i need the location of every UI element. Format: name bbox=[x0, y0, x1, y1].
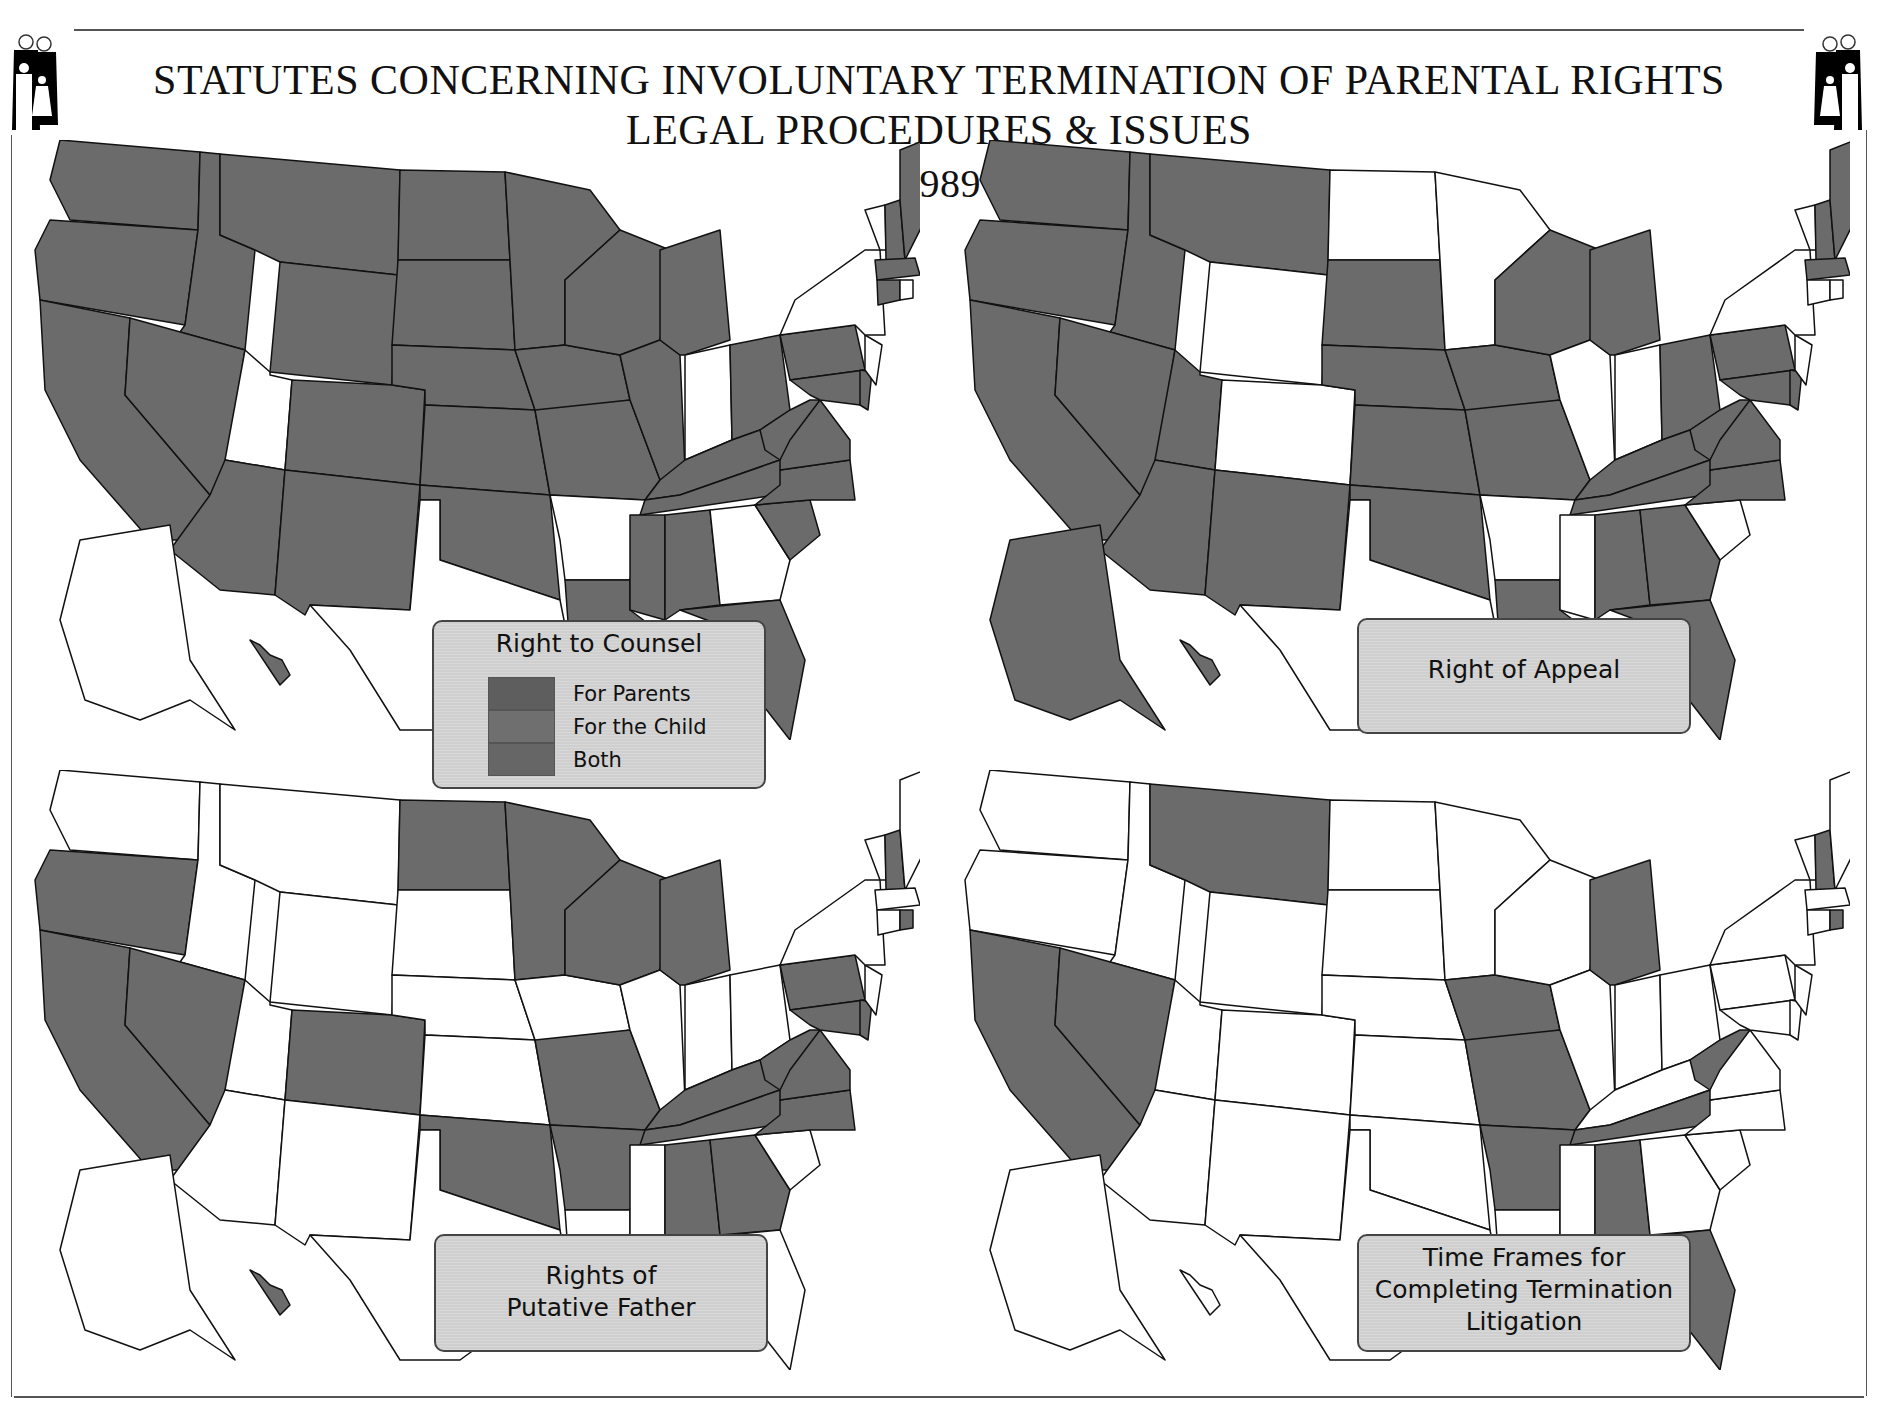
state-ct bbox=[877, 280, 900, 305]
state-me bbox=[1830, 770, 1850, 890]
state-ny bbox=[780, 880, 885, 965]
state-nd bbox=[398, 800, 510, 890]
legend-item-for-child: For the Child bbox=[488, 710, 707, 743]
state-hi bbox=[1180, 1270, 1220, 1315]
state-wa bbox=[50, 770, 200, 860]
state-hi bbox=[250, 1270, 290, 1315]
legend-item-both: Both bbox=[488, 743, 707, 776]
state-nd bbox=[398, 170, 510, 260]
swatch-for-parents bbox=[488, 677, 555, 710]
swatch-both bbox=[488, 743, 555, 776]
top-rule bbox=[74, 29, 1804, 31]
state-nm bbox=[275, 470, 420, 615]
state-wy bbox=[1200, 262, 1328, 385]
legend-time-frames: Time Frames for Completing Termination L… bbox=[1357, 1234, 1691, 1352]
state-ct bbox=[877, 910, 900, 935]
legend-right-of-appeal: Right of Appeal bbox=[1357, 618, 1691, 734]
state-sd bbox=[1322, 260, 1445, 350]
state-nd bbox=[1328, 800, 1440, 890]
legend-title-line1: Time Frames for bbox=[1359, 1242, 1689, 1274]
state-vt bbox=[865, 205, 886, 250]
state-me bbox=[900, 770, 920, 890]
legend-right-to-counsel: Right to Counsel For Parents For the Chi… bbox=[432, 620, 766, 789]
state-me bbox=[900, 140, 920, 260]
state-ri bbox=[900, 910, 913, 930]
state-nd bbox=[1328, 170, 1440, 260]
state-wy bbox=[1200, 892, 1328, 1015]
state-ny bbox=[1710, 250, 1815, 335]
state-wy bbox=[270, 892, 398, 1015]
state-hi bbox=[250, 640, 290, 685]
state-ct bbox=[1807, 910, 1830, 935]
bottom-rule bbox=[14, 1396, 1864, 1398]
state-nm bbox=[1205, 470, 1350, 615]
right-rule bbox=[1866, 130, 1867, 1396]
state-ks bbox=[420, 1035, 550, 1125]
state-sd bbox=[392, 260, 515, 350]
state-co bbox=[1215, 380, 1355, 485]
state-ri bbox=[900, 280, 913, 300]
legend-rights-of-putative-father: Rights of Putative Father bbox=[434, 1234, 768, 1352]
swatch-for-child bbox=[488, 710, 555, 743]
state-nm bbox=[275, 1100, 420, 1245]
state-ks bbox=[1350, 405, 1480, 495]
state-ms bbox=[1560, 515, 1595, 620]
state-ma bbox=[1805, 888, 1850, 910]
legend-item-for-parents: For Parents bbox=[488, 677, 707, 710]
state-mi bbox=[660, 860, 730, 985]
state-mi bbox=[1590, 230, 1660, 355]
state-nm bbox=[1205, 1100, 1350, 1245]
state-wa bbox=[980, 770, 1130, 860]
state-sd bbox=[392, 890, 515, 980]
state-ks bbox=[1350, 1035, 1480, 1125]
legend-title: Right of Appeal bbox=[1359, 654, 1689, 686]
legend-title-line1: Rights of bbox=[436, 1260, 766, 1292]
page-title: STATUTES CONCERNING INVOLUNTARY TERMINAT… bbox=[0, 56, 1878, 104]
state-ma bbox=[875, 888, 920, 910]
state-co bbox=[285, 380, 425, 485]
state-co bbox=[1215, 1010, 1355, 1115]
state-ks bbox=[420, 405, 550, 495]
state-co bbox=[285, 1010, 425, 1115]
state-mi bbox=[660, 230, 730, 355]
state-ri bbox=[1830, 910, 1843, 930]
state-wa bbox=[50, 140, 200, 230]
state-ct bbox=[1807, 280, 1830, 305]
legend-title-line3: Litigation bbox=[1359, 1306, 1689, 1338]
state-ny bbox=[780, 250, 885, 335]
state-wy bbox=[270, 262, 398, 385]
state-ms bbox=[630, 515, 665, 620]
legend-title-line2: Putative Father bbox=[436, 1292, 766, 1324]
legend-title: Right to Counsel bbox=[434, 628, 764, 660]
legend-title-line2: Completing Termination bbox=[1359, 1274, 1689, 1306]
state-me bbox=[1830, 140, 1850, 260]
state-vt bbox=[865, 835, 886, 880]
state-vt bbox=[1795, 205, 1816, 250]
state-vt bbox=[1795, 835, 1816, 880]
state-ny bbox=[1710, 880, 1815, 965]
state-ma bbox=[1805, 258, 1850, 280]
state-ri bbox=[1830, 280, 1843, 300]
state-mi bbox=[1590, 860, 1660, 985]
state-hi bbox=[1180, 640, 1220, 685]
left-rule bbox=[11, 135, 12, 1397]
state-sd bbox=[1322, 890, 1445, 980]
state-wa bbox=[980, 140, 1130, 230]
state-ma bbox=[875, 258, 920, 280]
